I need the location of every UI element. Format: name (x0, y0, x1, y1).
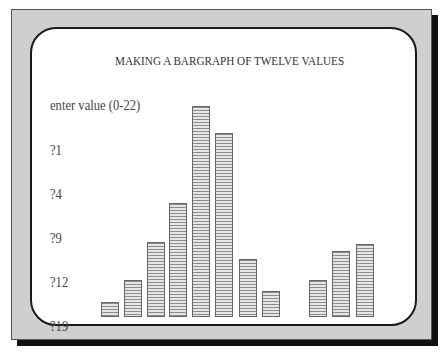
bar-5 (192, 106, 210, 317)
prompt-line: enter value (0-22) (50, 99, 140, 114)
bar-2 (124, 280, 142, 317)
bar-4 (169, 203, 187, 317)
bar-10 (309, 280, 327, 317)
bar-11 (332, 251, 350, 317)
input-line: ?9 (50, 232, 140, 247)
input-line: ?19 (50, 320, 140, 335)
input-line: ?4 (50, 188, 140, 203)
input-line: ?1 (50, 144, 140, 159)
program-title: MAKING A BARGRAPH OF TWELVE VALUES (115, 54, 299, 68)
bar-7 (239, 259, 257, 317)
bar-3 (147, 242, 165, 317)
bar-8 (262, 291, 280, 317)
bar-1 (101, 302, 119, 317)
bar-6 (215, 133, 233, 317)
bar-12 (356, 244, 374, 317)
